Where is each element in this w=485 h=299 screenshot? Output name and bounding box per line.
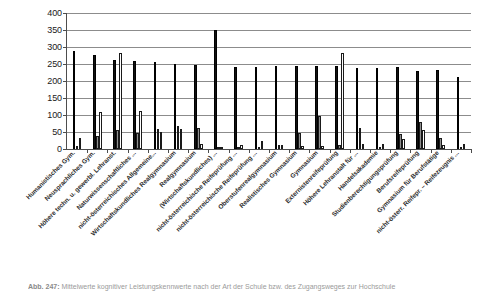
bar bbox=[99, 112, 102, 149]
bar-group bbox=[148, 13, 168, 149]
bar-group bbox=[330, 13, 350, 149]
bar-group bbox=[208, 13, 228, 149]
bar-chart: 400350300250200150100500 bbox=[8, 6, 477, 158]
bar bbox=[321, 146, 324, 149]
bar bbox=[318, 116, 321, 149]
bar-group bbox=[289, 13, 309, 149]
caption-number: Abb. 247: bbox=[28, 283, 60, 290]
bar-group bbox=[390, 13, 410, 149]
bar-group bbox=[350, 13, 370, 149]
bar bbox=[214, 30, 217, 149]
bar bbox=[382, 144, 385, 149]
bar-group bbox=[128, 13, 148, 149]
bar-group bbox=[168, 13, 188, 149]
figure-caption: Abb. 247: Mittelwerte kognitiver Leistun… bbox=[28, 283, 480, 291]
y-axis-tick-label: 350 bbox=[47, 26, 62, 35]
bar bbox=[139, 111, 142, 149]
bar-group bbox=[249, 13, 269, 149]
bar bbox=[281, 145, 284, 149]
bar bbox=[341, 53, 344, 149]
bar-group bbox=[67, 13, 87, 149]
bar bbox=[73, 51, 76, 149]
bar bbox=[376, 68, 379, 149]
bar bbox=[275, 66, 278, 149]
figure: 400350300250200150100500 Humanistisches … bbox=[0, 0, 485, 299]
y-axis-tick-label: 50 bbox=[52, 128, 62, 137]
x-axis-category-labels: Humanistisches Gym.Neusprachliches Gym.H… bbox=[8, 150, 485, 278]
bar bbox=[422, 130, 425, 149]
bar bbox=[240, 145, 243, 149]
bar-group bbox=[107, 13, 127, 149]
y-axis-tick-labels: 400350300250200150100500 bbox=[32, 13, 64, 149]
y-axis-tick-label: 100 bbox=[47, 111, 62, 120]
bar bbox=[93, 55, 96, 149]
bars-layer bbox=[67, 13, 471, 149]
bar bbox=[119, 53, 122, 149]
bar bbox=[402, 139, 405, 149]
plot-area bbox=[66, 13, 471, 150]
bar-group bbox=[370, 13, 390, 149]
bar bbox=[261, 141, 264, 150]
caption-text: Mittelwerte kognitiver Leistungskennwert… bbox=[61, 283, 395, 290]
bar bbox=[301, 146, 304, 149]
bar bbox=[180, 129, 183, 149]
bar bbox=[220, 147, 223, 149]
plot-wrapper: 400350300250200150100500 bbox=[8, 6, 477, 158]
bar-group bbox=[451, 13, 471, 149]
bar-group bbox=[269, 13, 289, 149]
y-axis-tick-label: 200 bbox=[47, 77, 62, 86]
bar bbox=[362, 144, 365, 149]
y-axis-tick-label: 250 bbox=[47, 60, 62, 69]
bar-group bbox=[229, 13, 249, 149]
bar-group bbox=[87, 13, 107, 149]
bar bbox=[255, 67, 258, 149]
bar bbox=[463, 144, 466, 149]
bar bbox=[160, 132, 163, 149]
bar bbox=[234, 67, 237, 149]
bar-group bbox=[309, 13, 329, 149]
bar-group bbox=[431, 13, 451, 149]
bar bbox=[79, 138, 82, 149]
bar-group bbox=[410, 13, 430, 149]
bar bbox=[200, 144, 203, 149]
y-axis-tick-label: 150 bbox=[47, 94, 62, 103]
bar bbox=[442, 145, 445, 149]
y-axis-tick-label: 300 bbox=[47, 43, 62, 52]
bar bbox=[457, 77, 460, 149]
bar bbox=[335, 66, 338, 149]
bar-group bbox=[188, 13, 208, 149]
y-axis-tick-label: 400 bbox=[47, 9, 62, 18]
